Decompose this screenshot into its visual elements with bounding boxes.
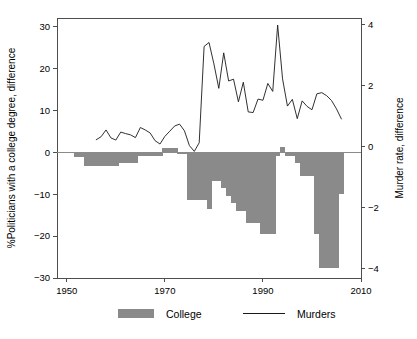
bar <box>104 152 109 166</box>
bar <box>231 152 236 203</box>
bar <box>295 152 300 163</box>
bar <box>300 152 305 175</box>
bar <box>260 152 265 233</box>
bar <box>216 152 221 181</box>
bar <box>148 152 153 156</box>
bar <box>79 152 84 157</box>
bar <box>221 152 226 188</box>
bar <box>99 152 104 166</box>
bar <box>265 152 270 233</box>
y2-tick-label: 0 <box>368 141 373 152</box>
bar <box>310 152 315 175</box>
y-tick-label: 20 <box>39 63 50 74</box>
bar <box>167 148 172 152</box>
y-tick-label: −30 <box>34 272 50 283</box>
bar <box>74 152 79 157</box>
x-tick-label: 1990 <box>252 285 273 296</box>
x-tick-label: 1970 <box>154 285 175 296</box>
bar <box>153 152 158 156</box>
y2-tick-label: −4 <box>368 263 379 274</box>
bar <box>158 152 163 156</box>
bar <box>162 148 167 152</box>
y-tick-label: −10 <box>34 189 50 200</box>
bar <box>118 152 123 163</box>
bar <box>89 152 94 166</box>
bar <box>108 152 113 166</box>
bar <box>280 147 285 152</box>
bar <box>319 152 324 268</box>
y-tick-label: 30 <box>39 21 50 32</box>
bar <box>94 152 99 166</box>
bar <box>143 152 148 156</box>
bar <box>290 152 295 156</box>
y-tick-label: 0 <box>45 147 50 158</box>
bar <box>236 152 241 211</box>
legend-label-college: College <box>166 308 202 320</box>
y2-tick-label: 4 <box>368 19 373 30</box>
bar <box>192 152 197 200</box>
legend-label-murders: Murders <box>297 308 336 320</box>
bar <box>84 152 89 166</box>
bar <box>305 152 310 175</box>
murder-college-difference-chart: 1950197019902010 −30−20−100102030 −4−202… <box>0 0 417 339</box>
bar <box>329 152 334 268</box>
bar <box>324 152 329 268</box>
y-tick-label: −20 <box>34 230 50 241</box>
y-axis-title: %Politicians with a college degree, diff… <box>6 47 17 248</box>
bar <box>246 152 251 223</box>
x-tick-label: 2010 <box>350 285 371 296</box>
chart-figure: 1950197019902010 −30−20−100102030 −4−202… <box>0 0 417 339</box>
bar <box>202 152 207 200</box>
bar <box>275 152 280 156</box>
bar <box>123 152 128 163</box>
bar <box>197 152 202 200</box>
bar <box>270 152 275 233</box>
bar <box>314 152 319 234</box>
bar <box>211 152 216 181</box>
y2-tick-label: −2 <box>368 202 379 213</box>
bar <box>339 152 344 194</box>
bar <box>172 148 177 152</box>
bar <box>256 152 261 223</box>
bar <box>138 152 143 156</box>
bar <box>133 152 138 163</box>
bar <box>285 152 290 156</box>
bar <box>251 152 256 223</box>
bar <box>187 152 192 200</box>
bar <box>207 152 212 209</box>
bar <box>334 152 339 268</box>
y2-tick-label: 2 <box>368 80 373 91</box>
bar <box>128 152 133 163</box>
bar <box>113 152 118 166</box>
bar <box>241 152 246 211</box>
legend-swatch-college <box>118 309 154 318</box>
y2-axis-title: Murder rate, difference <box>394 97 405 198</box>
bar <box>226 152 231 196</box>
x-tick-label: 1950 <box>56 285 77 296</box>
y-tick-label: 10 <box>39 105 50 116</box>
